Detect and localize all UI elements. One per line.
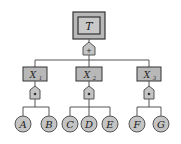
svg-text:X: X — [83, 70, 91, 80]
svg-text:2: 2 — [92, 75, 96, 81]
svg-text:A: A — [18, 119, 26, 130]
svg-text:3: 3 — [153, 75, 156, 81]
svg-text:B: B — [44, 119, 52, 130]
svg-text:F: F — [133, 119, 142, 130]
svg-text:1: 1 — [39, 75, 42, 81]
fault-tree-diagram: T + X 1 X 2 X 3 — [0, 0, 181, 144]
intermediate-node-x1: X 1 — [23, 67, 47, 81]
basic-event-f: F — [129, 116, 145, 132]
basic-event-b: B — [41, 116, 57, 132]
svg-text:X: X — [143, 70, 151, 80]
svg-text:C: C — [66, 119, 74, 130]
or-gate-icon: + — [83, 42, 95, 55]
basic-event-e: E — [102, 116, 118, 132]
and-gate-icon — [137, 81, 161, 116]
basic-event-a: A — [15, 116, 31, 132]
svg-text:E: E — [105, 119, 114, 130]
basic-event-g: G — [153, 116, 169, 132]
intermediate-node-x3: X 3 — [137, 67, 161, 81]
intermediate-node-x2: X 2 — [76, 67, 102, 81]
and-gate-icon — [23, 81, 49, 116]
svg-text:X: X — [29, 70, 37, 80]
basic-event-c: C — [62, 116, 78, 132]
basic-event-d: D — [81, 116, 97, 132]
or-gate-symbol: + — [86, 47, 92, 55]
top-event-node: T — [73, 12, 105, 39]
and-gate-icon — [70, 81, 110, 116]
svg-text:G: G — [157, 119, 165, 130]
svg-text:D: D — [84, 119, 93, 130]
